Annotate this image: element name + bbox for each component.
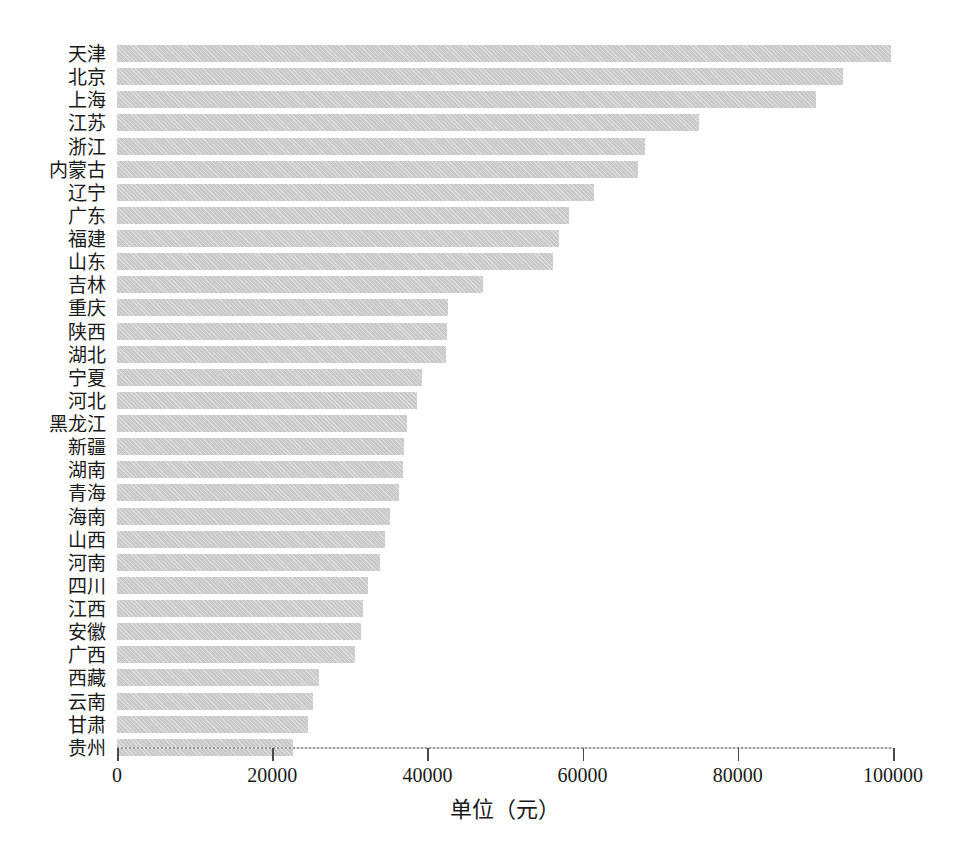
bar-chart: 天津北京上海江苏浙江内蒙古辽宁广东福建山东吉林重庆陕西湖北宁夏河北黑龙江新疆湖南… xyxy=(0,0,959,857)
category-label: 陕西 xyxy=(68,323,106,342)
x-tick-mark xyxy=(117,748,119,761)
category-label-row: 广西 xyxy=(0,644,112,667)
category-label: 天津 xyxy=(68,45,106,64)
bar-row xyxy=(117,552,893,575)
bar xyxy=(117,484,399,501)
category-label-row: 海南 xyxy=(0,506,112,529)
category-label-row: 浙江 xyxy=(0,136,112,159)
bar xyxy=(117,392,417,409)
category-label: 内蒙古 xyxy=(49,161,106,180)
bar xyxy=(117,346,446,363)
bar-row xyxy=(117,205,893,228)
bar-row xyxy=(117,390,893,413)
bar-row xyxy=(117,182,893,205)
category-label-row: 四川 xyxy=(0,575,112,598)
bar xyxy=(117,415,407,432)
bar-row xyxy=(117,667,893,690)
bar-row xyxy=(117,482,893,505)
x-tick-mark xyxy=(893,748,895,761)
category-label: 湖北 xyxy=(68,346,106,365)
category-label-row: 辽宁 xyxy=(0,182,112,205)
x-axis-title: 单位（元） xyxy=(117,797,893,823)
category-label-row: 青海 xyxy=(0,482,112,505)
category-label: 广西 xyxy=(68,646,106,665)
category-label-row: 上海 xyxy=(0,89,112,112)
bar xyxy=(117,161,638,178)
bar xyxy=(117,623,361,640)
bar xyxy=(117,299,448,316)
category-label: 河南 xyxy=(68,554,106,573)
category-label: 山东 xyxy=(68,253,106,272)
category-label: 江西 xyxy=(68,600,106,619)
category-label-row: 河北 xyxy=(0,390,112,413)
bar xyxy=(117,461,403,478)
category-label: 海南 xyxy=(68,508,106,527)
bar-row xyxy=(117,159,893,182)
category-label-row: 安徽 xyxy=(0,621,112,644)
category-label: 西藏 xyxy=(68,669,106,688)
bar xyxy=(117,369,422,386)
category-label: 云南 xyxy=(68,693,106,712)
bar-row xyxy=(117,43,893,66)
category-label: 上海 xyxy=(68,91,106,110)
bar-row xyxy=(117,136,893,159)
x-tick-label: 80000 xyxy=(713,765,763,785)
bar xyxy=(117,323,447,340)
x-tick-label: 60000 xyxy=(558,765,608,785)
bar-row xyxy=(117,436,893,459)
bar-row xyxy=(117,321,893,344)
category-label-row: 福建 xyxy=(0,228,112,251)
category-label: 河北 xyxy=(68,392,106,411)
bar xyxy=(117,45,891,62)
category-label: 广东 xyxy=(68,207,106,226)
category-label-row: 湖南 xyxy=(0,459,112,482)
x-tick-mark xyxy=(583,748,585,761)
category-label-row: 内蒙古 xyxy=(0,159,112,182)
category-label: 江苏 xyxy=(68,114,106,133)
bar-row xyxy=(117,367,893,390)
bar-row xyxy=(117,598,893,621)
category-label: 宁夏 xyxy=(68,369,106,388)
bar xyxy=(117,276,483,293)
bar xyxy=(117,138,645,155)
bar-row xyxy=(117,112,893,135)
bar-row xyxy=(117,89,893,112)
category-label: 北京 xyxy=(68,68,106,87)
bar-row xyxy=(117,621,893,644)
category-label-row: 江西 xyxy=(0,598,112,621)
bar xyxy=(117,230,559,247)
bar xyxy=(117,716,308,733)
category-label-row: 山东 xyxy=(0,251,112,274)
category-label-row: 北京 xyxy=(0,66,112,89)
category-label: 辽宁 xyxy=(68,184,106,203)
category-label-row: 宁夏 xyxy=(0,367,112,390)
category-label: 四川 xyxy=(68,577,106,596)
bar-row xyxy=(117,274,893,297)
category-label: 吉林 xyxy=(68,276,106,295)
bar-row xyxy=(117,344,893,367)
category-label-row: 吉林 xyxy=(0,274,112,297)
bar xyxy=(117,600,363,617)
bar xyxy=(117,68,843,85)
bar-row xyxy=(117,459,893,482)
plot-area xyxy=(117,43,893,737)
bar xyxy=(117,114,699,131)
category-label-row: 重庆 xyxy=(0,297,112,320)
bar xyxy=(117,207,569,224)
bar-row xyxy=(117,644,893,667)
bar xyxy=(117,554,380,571)
category-label-row: 天津 xyxy=(0,43,112,66)
category-label: 山西 xyxy=(68,531,106,550)
x-tick-label: 100000 xyxy=(863,765,923,785)
category-label-row: 黑龙江 xyxy=(0,413,112,436)
x-tick-label: 20000 xyxy=(247,765,297,785)
bar-row xyxy=(117,714,893,737)
category-label: 安徽 xyxy=(68,623,106,642)
bar xyxy=(117,669,319,686)
bar xyxy=(117,253,553,270)
category-label: 湖南 xyxy=(68,461,106,480)
category-label-row: 新疆 xyxy=(0,436,112,459)
bar-row xyxy=(117,66,893,89)
bar xyxy=(117,438,404,455)
category-label-row: 湖北 xyxy=(0,344,112,367)
